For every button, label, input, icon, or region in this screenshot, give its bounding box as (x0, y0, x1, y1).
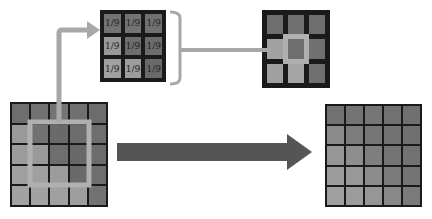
bracket-icon (170, 12, 180, 84)
light-arrowhead-icon (87, 21, 100, 39)
overlay-layer (0, 0, 432, 219)
dark-arrow-shaft (117, 143, 289, 161)
convolution-diagram: 1/91/91/91/91/91/91/91/91/9 (0, 0, 432, 219)
dark-arrowhead-icon (287, 134, 312, 170)
light-arrow-icon (59, 30, 88, 122)
window-highlight (30, 122, 89, 185)
